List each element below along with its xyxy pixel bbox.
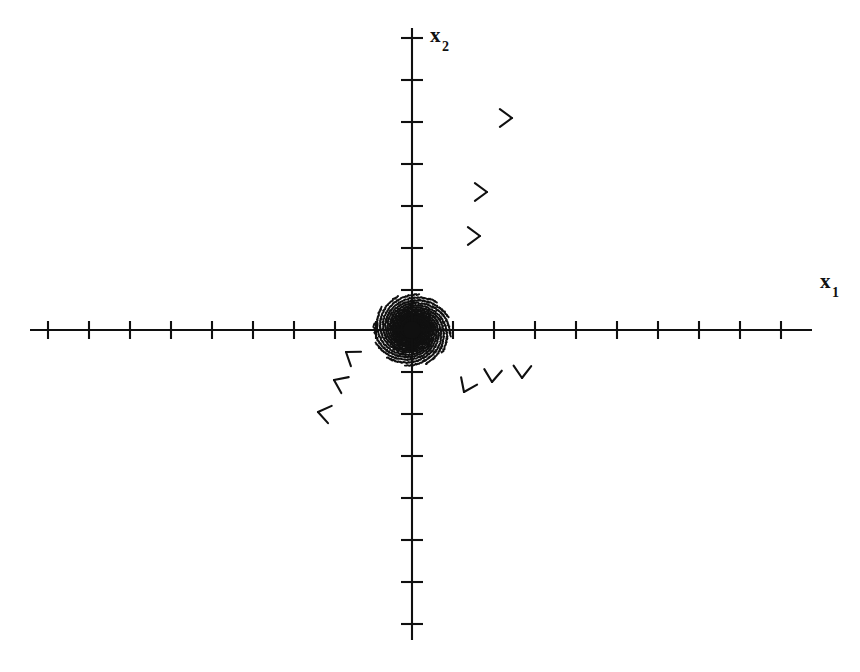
- arrowhead-barb: [318, 412, 328, 423]
- arrowhead-barb: [500, 109, 512, 118]
- x1-label-text: x: [820, 269, 831, 293]
- arrowhead-barb: [492, 371, 502, 382]
- arrow-upper-right-mid: [475, 183, 487, 201]
- arrowhead-barb: [464, 385, 477, 392]
- arrow-lower-right-b: [484, 369, 502, 382]
- direction-arrow-group: [318, 109, 531, 423]
- equilibrium-point: [403, 321, 421, 339]
- arrow-lower-left-mid: [334, 377, 349, 393]
- arrowhead-barb: [484, 369, 492, 382]
- arrowhead-barb: [468, 227, 480, 236]
- arrowhead-barb: [346, 352, 351, 366]
- phase-plane-canvas: x 1 x 2: [0, 0, 860, 672]
- arrowhead-barb: [461, 377, 464, 392]
- arrowhead-barb: [334, 380, 341, 393]
- arrow-lower-left-inner: [346, 352, 361, 367]
- x1-label-subscript: 1: [832, 285, 839, 300]
- x2-label-text: x: [430, 23, 441, 47]
- arrowhead-barb: [514, 366, 522, 378]
- arrowhead-barb: [500, 118, 512, 127]
- arrow-upper-right-outer: [500, 109, 512, 127]
- x2-label-subscript: 2: [442, 39, 449, 54]
- arrowhead-barb: [334, 377, 349, 380]
- arrowhead-barb: [468, 236, 480, 245]
- arrow-lower-right-c: [514, 366, 532, 378]
- arrowhead-barb: [475, 192, 487, 201]
- x2-axis-label: x 2: [430, 23, 449, 54]
- arrow-lower-right-a: [461, 377, 477, 392]
- arrowhead-barb: [318, 406, 332, 412]
- arrowhead-barb: [475, 183, 487, 192]
- arrowhead-barb: [522, 366, 531, 378]
- x1-axis-label: x 1: [820, 269, 839, 300]
- phase-portrait-figure: x 1 x 2: [0, 0, 860, 672]
- arrow-lower-left-outer: [318, 406, 332, 423]
- arrow-upper-right-inner: [468, 227, 480, 245]
